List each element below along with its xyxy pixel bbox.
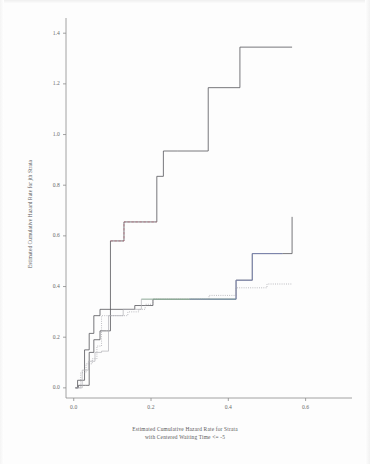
- series-curve-high-reddash: [110, 222, 156, 241]
- x-tick-label: 0.4: [216, 404, 240, 410]
- x-tick-label: 0.2: [139, 404, 163, 410]
- x-axis-title-line2: with Centered Waiting Time <= -5: [0, 434, 370, 442]
- series-curve-mid-black: [75, 217, 292, 388]
- x-ticks-group: [74, 398, 306, 401]
- series-curve-low-faint: [76, 299, 153, 388]
- y-ticks-group: [63, 33, 66, 388]
- y-axis-title: Estimated Cumulative Hazard Rate for jth…: [27, 114, 35, 314]
- x-axis-title-line1: Estimated Cumulative Hazard Rate for Str…: [0, 426, 370, 434]
- y-tick-label: 1.2: [38, 80, 60, 86]
- series-curve-high-black: [76, 47, 292, 388]
- y-tick-label: 0.8: [38, 182, 60, 188]
- y-tick-label: 1.4: [38, 30, 60, 36]
- x-axis-title: Estimated Cumulative Hazard Rate for Str…: [0, 426, 370, 441]
- y-tick-label: 1.0: [38, 131, 60, 137]
- figure-canvas: 0.00.20.40.60.81.01.21.4 0.00.20.40.6 Es…: [0, 0, 370, 464]
- y-tick-label: 0.0: [38, 384, 60, 390]
- axes-group: [66, 18, 352, 398]
- x-tick-label: 0.0: [62, 404, 86, 410]
- x-tick-label: 0.6: [294, 404, 318, 410]
- y-tick-label: 0.2: [38, 334, 60, 340]
- series-curve-mid-blue: [190, 254, 283, 300]
- y-tick-label: 0.4: [38, 283, 60, 289]
- data-series-group: [75, 47, 292, 388]
- y-tick-label: 0.6: [38, 232, 60, 238]
